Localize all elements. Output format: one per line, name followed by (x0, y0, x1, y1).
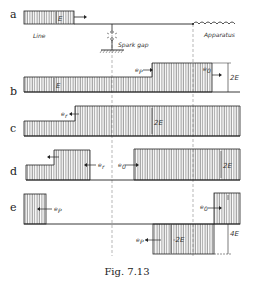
wave-profile-e-right (214, 193, 240, 224)
arrowhead-icon (69, 112, 72, 116)
4E-label-e: 4E (230, 230, 239, 238)
ep-bottom-sub-e: P (140, 238, 144, 245)
neg-2E-label-e: -2E (173, 236, 185, 244)
E-label-a: E (58, 15, 63, 23)
eo-sub-e: 0 (204, 205, 208, 212)
panel-label-b: b (10, 85, 17, 98)
spark-gap-label: Spark gap (118, 41, 149, 49)
wave-profile-c (24, 106, 240, 136)
apparatus-label: Apparatus (203, 31, 235, 39)
panel-label-c: c (10, 122, 16, 135)
ep-sub-b: P (139, 68, 143, 75)
eo-sub-d: 0 (122, 163, 126, 170)
E-label-b: E (56, 82, 61, 90)
incident-wave-block (24, 11, 74, 24)
er-sub-c: r (65, 112, 68, 119)
wave-profile-d-left (26, 150, 90, 180)
arrowhead-icon (84, 15, 87, 19)
eo-sub-b: 0 (207, 67, 211, 74)
arrowhead-icon (145, 238, 148, 242)
panel-e: e e P e 0 e P -2E 4E (10, 193, 240, 254)
wave-profile-b (24, 63, 212, 92)
apparatus-coil-icon (193, 22, 235, 24)
panel-label-d: d (10, 165, 17, 178)
panel-label-e: e (10, 201, 17, 214)
panel-c: c e r 2E (10, 106, 240, 136)
panel-a: a E Line Apparatus (10, 8, 235, 53)
line-label: Line (33, 32, 46, 39)
arrowhead-icon (47, 155, 50, 159)
2E-label-c: 2E (154, 119, 163, 127)
2E-label-d: 2E (223, 162, 232, 170)
2E-label-b: 2E (230, 74, 239, 82)
panel-label-a: a (10, 8, 17, 21)
panel-b: b E e P e 0 2E (10, 63, 240, 98)
panel-d: d e r e 0 2E (10, 149, 240, 180)
er-sub-d: r (102, 163, 105, 170)
spark-gap-icon (100, 24, 124, 53)
arrowhead-icon (219, 73, 222, 77)
travelling-wave-diagram: a E Line Apparatus (0, 0, 254, 284)
figure-caption: Fig. 7.13 (104, 266, 149, 277)
ep-left-sub-e: P (58, 207, 62, 214)
